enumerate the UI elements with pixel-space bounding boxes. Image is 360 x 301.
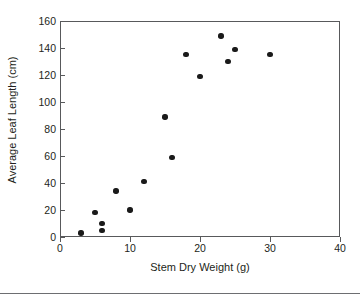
scatter-plot-figure: 020406080100120140160 010203040 Stem Dry… (0, 0, 360, 301)
data-point (127, 207, 132, 212)
x-axis-tick-label: 20 (194, 243, 206, 254)
data-point (267, 52, 272, 57)
y-axis-tick (60, 129, 65, 130)
y-axis-tick (60, 75, 65, 76)
x-axis-tick-label: 10 (124, 243, 136, 254)
data-point (183, 52, 188, 57)
y-axis-tick (60, 183, 65, 184)
data-point (169, 155, 174, 160)
x-axis-tick-label: 30 (264, 243, 276, 254)
x-axis-tick-label: 40 (334, 243, 346, 254)
data-point (232, 47, 237, 52)
data-point (113, 188, 118, 193)
y-axis-tick (60, 21, 65, 22)
y-axis-tick-label: 20 (44, 205, 56, 216)
y-axis-tick (60, 210, 65, 211)
data-point (99, 221, 104, 226)
y-axis-title: Average Leaf Length (cm) (6, 12, 18, 228)
y-axis-tick-label: 60 (44, 151, 56, 162)
y-axis-tick-label: 40 (44, 178, 56, 189)
data-points-layer (60, 21, 340, 237)
y-axis-tick-label: 160 (38, 16, 56, 27)
data-point (92, 210, 97, 215)
data-point (141, 179, 146, 184)
data-point (197, 74, 202, 79)
y-axis-tick (60, 48, 65, 49)
y-axis-tick (60, 156, 65, 157)
y-axis-tick-label: 0 (50, 232, 56, 243)
data-point (78, 230, 83, 235)
y-axis-tick-label: 140 (38, 43, 56, 54)
data-point (218, 33, 223, 38)
footer-divider (0, 293, 360, 294)
x-axis-title: Stem Dry Weight (g) (60, 261, 340, 273)
data-point (99, 228, 104, 233)
y-axis-tick-label: 80 (44, 124, 56, 135)
y-axis-tick-label: 120 (38, 70, 56, 81)
data-point (225, 59, 230, 64)
data-point (162, 114, 167, 119)
y-axis-tick (60, 102, 65, 103)
y-axis-tick-label: 100 (38, 97, 56, 108)
x-axis-tick-label: 0 (57, 243, 63, 254)
